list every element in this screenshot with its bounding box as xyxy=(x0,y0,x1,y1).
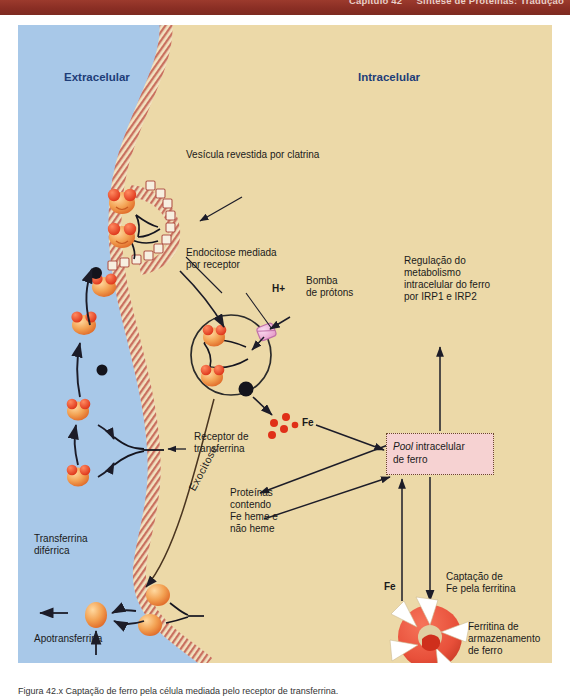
label-diferric-transferrin-line2: diférrica xyxy=(34,545,70,558)
label-fe-proteins-line2: contendo xyxy=(230,499,271,512)
intracellular-iron-pool-box: Pool intracelular de ferro xyxy=(386,433,494,475)
label-receptor-endocytosis-line2: por receptor xyxy=(186,259,240,272)
membrane-marker-dot-2 xyxy=(97,365,108,376)
running-header-band: Capítulo 42 Síntese de Proteínas: Traduç… xyxy=(0,0,570,15)
label-transferrin-receptor-line1: Receptor de xyxy=(194,431,248,444)
endosome-marker-dot xyxy=(239,382,254,397)
diagram-graphics xyxy=(18,25,552,663)
label-intracellular: Intracelular xyxy=(358,71,420,84)
pool-line2: de ferro xyxy=(393,454,427,465)
label-iron-regulation-line1: Regulação do xyxy=(404,255,466,268)
header-separator xyxy=(405,0,414,6)
label-ferritin-line1: Ferritina de xyxy=(468,621,519,634)
label-extracellular: Extracelular xyxy=(64,71,130,84)
label-fe-proteins-line3: Fe heme e xyxy=(230,511,278,524)
header-gap xyxy=(0,15,570,22)
pool-italic-word: Pool xyxy=(393,441,413,452)
pool-rest-word: intracelular xyxy=(413,441,465,452)
running-header-text: Capítulo 42 Síntese de Proteínas: Traduç… xyxy=(349,0,564,6)
label-iron-regulation-line4: por IRP1 e IRP2 xyxy=(404,291,477,304)
pool-box-text: Pool intracelular de ferro xyxy=(393,441,465,466)
iron-uptake-diagram: Extracelular Intracelular Vesícula reves… xyxy=(18,25,552,663)
label-iron-regulation-line2: metabolismo xyxy=(404,267,461,280)
membrane-marker-dot-1 xyxy=(90,267,102,279)
label-fe-to-ferritin: Fe xyxy=(384,581,396,594)
figure-page: Capítulo 42 Síntese de Proteínas: Traduç… xyxy=(0,0,570,696)
label-proton: H+ xyxy=(272,283,285,296)
label-diferric-transferrin-line1: Transferrina xyxy=(34,533,88,546)
label-ferritin-line2: armazenamento xyxy=(468,633,540,646)
header-title: Síntese de Proteínas: Tradução xyxy=(417,0,565,6)
label-ferritin-uptake-line1: Captação de xyxy=(446,571,503,584)
label-proton-pump-line1: Bomba xyxy=(306,275,338,288)
label-proton-pump-line2: de prótons xyxy=(306,287,353,300)
label-iron-regulation-line3: intracelular do ferro xyxy=(404,279,490,292)
label-ferritin-line3: de ferro xyxy=(468,645,502,658)
label-fe-proteins-line1: Proteínas xyxy=(230,487,273,500)
label-fe-proteins-line4: não heme xyxy=(230,523,274,536)
header-chapter: Capítulo 42 xyxy=(349,0,402,6)
label-receptor-endocytosis-line1: Endocitose mediada xyxy=(186,247,277,260)
label-ferritin-uptake-line2: Fe pela ferritina xyxy=(446,583,515,596)
label-apotransferrin: Apotransferrina xyxy=(34,633,102,646)
figure-caption: Figura 42.x Captação de ferro pela célul… xyxy=(18,686,558,696)
label-fe-endosome: Fe xyxy=(302,417,314,430)
label-clathrin-vesicle: Vesícula revestida por clatrina xyxy=(186,149,319,162)
